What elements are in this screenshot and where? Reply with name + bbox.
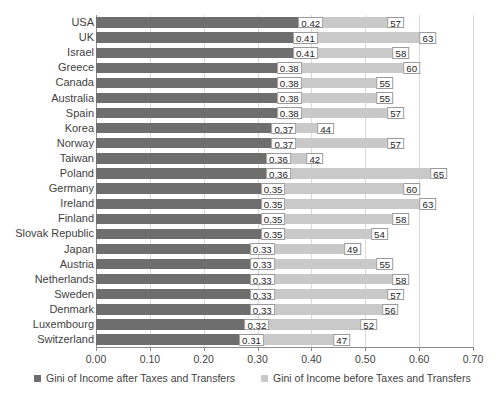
bar-group: 0.3147 xyxy=(96,334,473,344)
category-label: Taiwan xyxy=(0,151,94,166)
bar-after-taxes[interactable] xyxy=(96,319,268,329)
bar-group: 0.3355 xyxy=(96,259,473,269)
category-label: Germany xyxy=(0,181,94,196)
bar-value-label-before: 55 xyxy=(376,92,393,104)
category-label: UK xyxy=(0,30,94,45)
bar-value-label-after: 0.38 xyxy=(277,77,302,89)
bar-after-taxes[interactable] xyxy=(96,17,322,27)
bar-value-label-after: 0.35 xyxy=(261,198,286,210)
bar-value-label-before: 55 xyxy=(376,258,393,270)
bar-after-taxes[interactable] xyxy=(96,274,274,284)
x-axis-tick xyxy=(204,347,205,351)
bar-row: Ireland0.3563 xyxy=(0,196,503,211)
x-axis-tick xyxy=(365,347,366,351)
bar-value-label-before: 60 xyxy=(403,183,420,195)
bar-value-label-after: 0.35 xyxy=(261,228,286,240)
bar-after-taxes[interactable] xyxy=(96,244,274,254)
legend-label-before: Gini of Income before Taxes and Transfer… xyxy=(273,372,471,384)
bar-before-taxes[interactable] xyxy=(285,183,420,193)
bar-after-taxes[interactable] xyxy=(96,48,317,58)
x-axis-tick xyxy=(473,347,474,351)
category-label: Ireland xyxy=(0,196,94,211)
bar-value-label-before: 56 xyxy=(382,304,399,316)
category-label: Denmark xyxy=(0,302,94,317)
bar-group: 0.3563 xyxy=(96,199,473,209)
bar-before-taxes[interactable] xyxy=(285,199,436,209)
chart-legend: Gini of Income after Taxes and Transfers… xyxy=(0,372,503,390)
category-label: Netherlands xyxy=(0,272,94,287)
legend-swatch-after-icon xyxy=(34,375,41,382)
bar-after-taxes[interactable] xyxy=(96,78,301,88)
bar-before-taxes[interactable] xyxy=(274,259,392,269)
category-label: Poland xyxy=(0,166,94,181)
bar-value-label-before: 47 xyxy=(333,334,350,346)
bar-after-taxes[interactable] xyxy=(96,138,295,148)
bar-after-taxes[interactable] xyxy=(96,289,274,299)
x-axis-tick-label: 0.10 xyxy=(140,353,160,365)
x-axis-tick-label: 0.00 xyxy=(86,353,106,365)
bar-value-label-before: 49 xyxy=(344,243,361,255)
bar-after-taxes[interactable] xyxy=(96,334,263,344)
bar-row: USA0.4257 xyxy=(0,15,503,30)
bar-value-label-before: 65 xyxy=(430,168,447,180)
bar-group: 0.3358 xyxy=(96,274,473,284)
bar-row: Greece0.3860 xyxy=(0,60,503,75)
bar-after-taxes[interactable] xyxy=(96,304,274,314)
bar-row: Denmark0.3356 xyxy=(0,302,503,317)
bar-row: Japan0.3349 xyxy=(0,242,503,257)
bar-after-taxes[interactable] xyxy=(96,259,274,269)
x-axis-tick-label: 0.60 xyxy=(409,353,429,365)
bar-value-label-before: 55 xyxy=(376,77,393,89)
bar-row: Slovak Republic0.3554 xyxy=(0,226,503,241)
bar-before-taxes[interactable] xyxy=(290,168,446,178)
bar-before-taxes[interactable] xyxy=(285,214,409,224)
category-label: Austria xyxy=(0,257,94,272)
legend-label-after: Gini of Income after Taxes and Transfers xyxy=(46,372,235,384)
bar-group: 0.3642 xyxy=(96,153,473,163)
bar-row: Finland0.3558 xyxy=(0,211,503,226)
bar-value-label-after: 0.38 xyxy=(277,107,302,119)
category-label: Slovak Republic xyxy=(0,226,94,241)
bar-row: Norway0.3757 xyxy=(0,136,503,151)
bar-value-label-after: 0.36 xyxy=(266,168,291,180)
x-axis-tick xyxy=(258,347,259,351)
bar-value-label-after: 0.41 xyxy=(293,47,318,59)
bar-after-taxes[interactable] xyxy=(96,108,301,118)
bar-row: Luxembourg0.3252 xyxy=(0,317,503,332)
legend-item-before[interactable]: Gini of Income before Taxes and Transfer… xyxy=(261,372,471,384)
bar-after-taxes[interactable] xyxy=(96,183,285,193)
bar-before-taxes[interactable] xyxy=(301,63,419,73)
bar-after-taxes[interactable] xyxy=(96,63,301,73)
bar-value-label-after: 0.37 xyxy=(271,138,296,150)
category-label: Spain xyxy=(0,106,94,121)
bar-before-taxes[interactable] xyxy=(274,304,398,314)
bar-after-taxes[interactable] xyxy=(96,93,301,103)
bar-value-label-after: 0.37 xyxy=(271,123,296,135)
bar-value-label-before: 63 xyxy=(420,198,437,210)
bar-before-taxes[interactable] xyxy=(274,289,403,299)
bar-group: 0.4163 xyxy=(96,32,473,42)
bar-group: 0.3357 xyxy=(96,289,473,299)
bar-before-taxes[interactable] xyxy=(317,32,435,42)
bar-after-taxes[interactable] xyxy=(96,123,295,133)
bar-value-label-before: 58 xyxy=(393,47,410,59)
bar-after-taxes[interactable] xyxy=(96,153,290,163)
bar-row: Spain0.3857 xyxy=(0,106,503,121)
bar-row: Sweden0.3357 xyxy=(0,287,503,302)
bar-row: Israel0.4158 xyxy=(0,45,503,60)
bar-value-label-after: 0.32 xyxy=(244,319,269,331)
bar-group: 0.4257 xyxy=(96,17,473,27)
bar-value-label-before: 57 xyxy=(387,138,404,150)
x-axis-tick-label: 0.20 xyxy=(193,353,213,365)
bar-value-label-after: 0.33 xyxy=(250,243,275,255)
bar-after-taxes[interactable] xyxy=(96,32,317,42)
bar-after-taxes[interactable] xyxy=(96,229,285,239)
bar-value-label-before: 58 xyxy=(393,274,410,286)
bar-value-label-after: 0.42 xyxy=(298,17,323,29)
bar-row: Korea0.3744 xyxy=(0,121,503,136)
bar-after-taxes[interactable] xyxy=(96,168,290,178)
bar-after-taxes[interactable] xyxy=(96,199,285,209)
bar-before-taxes[interactable] xyxy=(274,274,409,284)
bar-after-taxes[interactable] xyxy=(96,214,285,224)
legend-item-after[interactable]: Gini of Income after Taxes and Transfers xyxy=(34,372,235,384)
